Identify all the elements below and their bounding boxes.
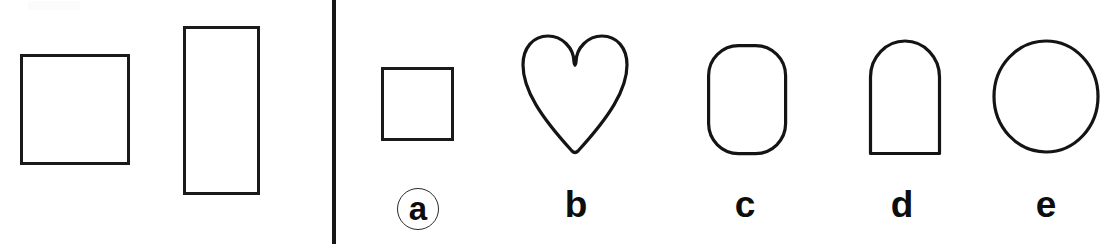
- vertical-divider: [332, 0, 336, 244]
- option-shape-b-heart[interactable]: [520, 32, 630, 160]
- option-shape-e-circle[interactable]: [990, 36, 1108, 162]
- option-label-d[interactable]: d: [877, 186, 927, 223]
- scan-artifact: [28, 1, 80, 10]
- option-label-e[interactable]: e: [1021, 186, 1071, 223]
- option-label-a[interactable]: a: [397, 188, 439, 230]
- option-label-c[interactable]: c: [720, 186, 770, 223]
- option-label-b[interactable]: b: [551, 186, 601, 223]
- option-shape-c-rounded-rectangle[interactable]: [704, 38, 794, 160]
- option-label-a-text: a: [397, 188, 439, 230]
- shape-figure: a b c d e: [0, 0, 1110, 244]
- option-shape-d-arch[interactable]: [864, 36, 948, 162]
- example-shape-rectangle: [183, 26, 260, 195]
- example-shape-square: [20, 54, 130, 165]
- option-shape-a-square[interactable]: [381, 67, 454, 141]
